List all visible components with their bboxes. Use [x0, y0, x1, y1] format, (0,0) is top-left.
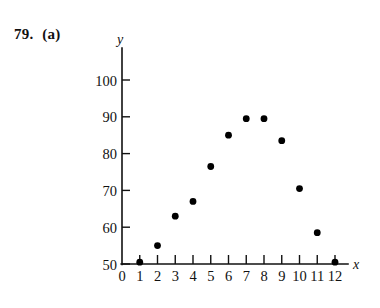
data-point: [314, 229, 321, 236]
y-axis-ticks: [122, 80, 130, 264]
data-point: [225, 132, 232, 139]
data-point: [296, 185, 303, 192]
data-point: [261, 115, 268, 122]
x-tick-label-6: 6: [225, 268, 232, 284]
x-tick-label-10: 10: [292, 268, 307, 284]
y-tick-label-50: 50: [103, 257, 118, 273]
scatter-plot-figure: 5060708090100 0123456789101112 y x: [0, 0, 380, 308]
y-tick-label-60: 60: [103, 220, 118, 236]
figure-page: 79.(a) 5060708090100 0123456789101112 y …: [0, 0, 380, 308]
x-tick-label-0: 0: [118, 268, 125, 284]
scatter-plot-svg: 5060708090100 0123456789101112 y x: [0, 0, 380, 308]
data-point: [136, 259, 143, 266]
x-tick-label-2: 2: [154, 268, 161, 284]
x-tick-label-5: 5: [207, 268, 214, 284]
y-tick-label-70: 70: [103, 183, 118, 199]
x-tick-label-3: 3: [172, 268, 179, 284]
x-axis-tick-labels: 0123456789101112: [118, 268, 342, 284]
y-axis-label: y: [115, 32, 124, 47]
x-tick-label-7: 7: [243, 268, 250, 284]
y-tick-label-90: 90: [103, 109, 118, 125]
x-axis-ticks: [140, 255, 335, 264]
data-point: [332, 259, 339, 266]
y-tick-label-80: 80: [103, 146, 118, 162]
x-tick-label-1: 1: [136, 268, 143, 284]
x-tick-label-4: 4: [189, 268, 197, 284]
x-tick-label-8: 8: [260, 268, 267, 284]
data-point: [190, 198, 197, 205]
data-point: [278, 137, 285, 144]
data-point: [154, 242, 161, 249]
x-tick-label-11: 11: [310, 268, 324, 284]
x-tick-label-9: 9: [278, 268, 285, 284]
data-point: [172, 213, 179, 220]
data-point: [243, 115, 250, 122]
y-tick-label-100: 100: [95, 73, 117, 89]
x-tick-label-12: 12: [328, 268, 343, 284]
x-axis-label: x: [352, 257, 360, 272]
data-point: [207, 163, 214, 170]
data-point-group: [136, 115, 338, 265]
y-axis-tick-labels: 5060708090100: [95, 73, 117, 273]
